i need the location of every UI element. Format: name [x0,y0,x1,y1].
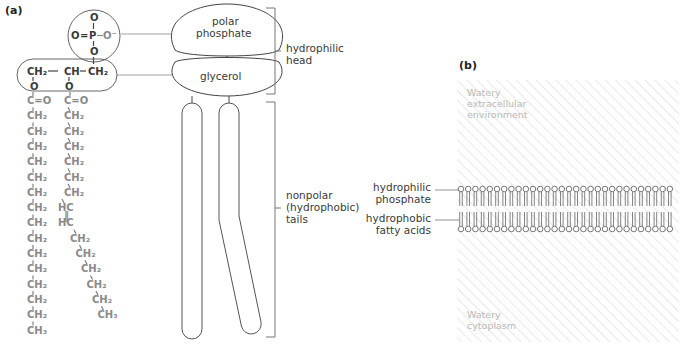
phosphate-group: O O = P O⁻ O [68,10,120,64]
glycerol-label: glycerol [200,70,241,82]
phospholipid-diagram: (a) O O = P O⁻ O CH₂ CH CH₂ O O C=OCH₂CH… [0,0,691,350]
panel-b-label: (b) [459,59,477,72]
polar-phosphate-label-2: phosphate [196,27,252,39]
nonpolar-tails-label-3: tails [286,213,308,225]
cytoplasm-label-2: cytoplasm [467,320,516,331]
chain-left-group: CH₂ [27,309,47,320]
chain-left-group: CH₂ [27,217,47,228]
chain-left-group: CH₂ [27,263,47,274]
chain-left-group: CH₂ [27,248,47,259]
svg-text:CH₂: CH₂ [27,66,47,77]
svg-text:O: O [65,81,74,92]
polar-phosphate-label-1: polar [212,15,239,27]
hydrophilic-head-label-2: head [286,54,312,66]
chain-right-group: CH₂ [64,126,84,137]
cytoplasm-label-1: Watery [467,309,501,320]
fatty-acid-chain-unsaturated: C=OCH₂CH₂CH₂CH₂CH₂CH₂HC‖HCCH₂CH₂CH₂CH₂CH… [58,92,118,320]
chain-right-group: CH₃ [98,309,118,320]
glycerol-group: CH₂ CH CH₂ O O [17,59,117,92]
chain-right-group: CH₂ [70,233,90,244]
chain-left-group: C=O [27,95,51,106]
chain-left-group: CH₂ [27,294,47,305]
chain-left-group: CH₂ [27,141,47,152]
hydrophilic-phosphate-label-2: phosphate [375,193,431,205]
panel-a-label: (a) [5,4,22,17]
chain-right-group: CH₂ [87,279,107,290]
phosphorus: P [89,30,96,41]
chain-right-group: CH₂ [64,110,84,121]
chain-left-group: CH₂ [27,156,47,167]
hydrophilic-phosphate-label-1: hydrophilic [373,181,431,193]
extracellular-label-2: extracellular [467,98,527,109]
chain-left-group: CH₂ [27,126,47,137]
hydrophilic-head-label-1: hydrophilic [286,42,344,54]
extracellular-label-1: Watery [467,87,501,98]
svg-text:CH₂: CH₂ [88,66,108,77]
svg-text:O: O [30,81,39,92]
nonpolar-tails-label-2: (hydrophobic) [286,201,359,213]
svg-text:O: O [71,30,80,41]
chain-right-group: HC [58,217,74,228]
o-minus: O⁻ [103,30,117,41]
chain-left-group: CH₂ [27,202,47,213]
chain-left-group: CH₂ [27,110,47,121]
chain-right-group: CH₂ [64,141,84,152]
chain-right-group: CH₂ [64,172,84,183]
nonpolar-tails-label-1: nonpolar [286,189,333,201]
hydrophobic-fatty-acids-label-2: fatty acids [376,224,431,236]
svg-text:O: O [90,46,99,57]
saturated-tail-shape [182,103,202,339]
unsaturated-tail-shape [219,103,261,334]
chain-right-group: C=O [64,95,88,106]
chain-left-group: CH₂ [27,172,47,183]
hydrophobic-tails-bracket [266,102,281,337]
chain-left-group: CH₃ [27,325,47,336]
chain-left-group: CH₂ [27,233,47,244]
chain-left-group: CH₂ [27,187,47,198]
phosphate-top-o: O [90,12,99,23]
hydrophobic-fatty-acids-label-1: hydrophobic [366,212,431,224]
chain-right-group: CH₂ [81,263,101,274]
svg-text:CH: CH [64,66,80,77]
chain-right-group: CH₂ [64,187,84,198]
chain-right-group: CH₂ [64,156,84,167]
extracellular-label-3: environment [467,109,528,120]
chain-right-group: CH₂ [92,294,112,305]
fatty-acid-chain-saturated: C=OCH₂CH₂CH₂CH₂CH₂CH₂CH₂CH₂CH₂CH₂CH₂CH₂C… [27,92,51,336]
svg-text:=: = [80,30,88,41]
chain-right-group: CH₂ [76,248,96,259]
chain-left-group: CH₂ [27,279,47,290]
